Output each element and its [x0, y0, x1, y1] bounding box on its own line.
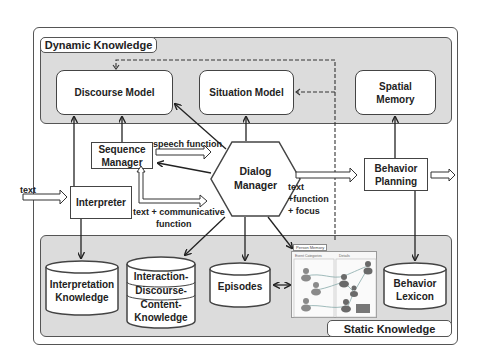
connector-arrows [0, 0, 487, 364]
